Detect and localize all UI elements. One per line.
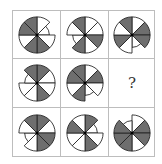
puzzle-cell: [12, 10, 60, 58]
sector-circle-icon: [17, 15, 57, 55]
puzzle-cell: [60, 58, 108, 107]
puzzle-cell: [12, 107, 60, 157]
puzzle-cell: [60, 10, 108, 58]
puzzle-cell: ?: [108, 58, 155, 107]
sector-circle-icon: [112, 15, 152, 55]
puzzle-grid: ?: [12, 10, 155, 157]
sector-circle-icon: [112, 113, 152, 153]
puzzle-cell: [12, 58, 60, 107]
puzzle-cell: [108, 10, 155, 58]
sector-circle-icon: [65, 63, 105, 103]
sector-circle-icon: [17, 63, 57, 103]
sector-circle-icon: [17, 113, 57, 153]
question-mark: ?: [128, 74, 136, 92]
sector-circle-icon: [65, 113, 105, 153]
puzzle-cell: [60, 107, 108, 157]
sector-circle-icon: [65, 15, 105, 55]
puzzle-cell: [108, 107, 155, 157]
